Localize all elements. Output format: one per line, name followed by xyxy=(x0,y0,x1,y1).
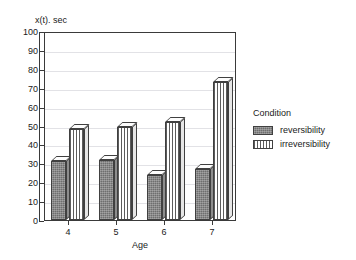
x-tick-label-5: 5 xyxy=(101,227,131,237)
y-tick-label: 20 xyxy=(4,179,38,188)
bar-side xyxy=(84,125,89,220)
bar-face xyxy=(147,175,162,220)
y-tick-label: 10 xyxy=(4,198,38,207)
bar-irreversibility-7 xyxy=(213,82,228,220)
bar-face xyxy=(99,160,114,220)
x-tick-mark xyxy=(164,221,165,225)
legend-entries: reversibilityirreversibility xyxy=(253,125,353,149)
legend-item-irreversibility: irreversibility xyxy=(253,139,353,149)
bar-face xyxy=(165,122,180,220)
chart-figure: x(t). sec 0102030405060708090100 4567 Ag… xyxy=(0,0,356,260)
gridline xyxy=(45,109,235,110)
legend-title: Condition xyxy=(253,108,353,119)
y-tick-mark xyxy=(39,221,44,222)
legend-swatch-reversibility xyxy=(253,126,273,135)
gridline xyxy=(45,90,235,91)
gridline xyxy=(45,52,235,53)
legend: Condition reversibilityirreversibility xyxy=(253,108,353,153)
x-axis-title: Age xyxy=(44,240,236,250)
legend-label-irreversibility: irreversibility xyxy=(280,139,330,149)
y-tick-label: 60 xyxy=(4,104,38,113)
bar-reversibility-4 xyxy=(51,161,66,220)
x-tick-mark xyxy=(68,221,69,225)
y-axis-caption: x(t). sec xyxy=(35,15,67,26)
bar-irreversibility-4 xyxy=(69,129,84,220)
y-tick-label: 100 xyxy=(4,28,38,37)
bar-side xyxy=(228,78,233,220)
bar-face xyxy=(213,82,228,220)
bar-face xyxy=(117,127,132,220)
legend-item-reversibility: reversibility xyxy=(253,125,353,135)
legend-label-reversibility: reversibility xyxy=(280,125,325,135)
bar-reversibility-5 xyxy=(99,160,114,220)
x-tick-label-7: 7 xyxy=(197,227,227,237)
y-tick-label: 50 xyxy=(4,123,38,132)
bar-side xyxy=(180,117,185,220)
y-tick-label: 90 xyxy=(4,47,38,56)
bar-face xyxy=(195,169,210,220)
bar-reversibility-6 xyxy=(147,175,162,220)
cropped-title xyxy=(0,0,356,9)
bar-face xyxy=(51,161,66,220)
x-tick-label-4: 4 xyxy=(53,227,83,237)
y-tick-label: 40 xyxy=(4,141,38,150)
legend-swatch-irreversibility xyxy=(253,140,273,149)
bar-side xyxy=(132,123,137,220)
x-tick-mark xyxy=(116,221,117,225)
bar-irreversibility-5 xyxy=(117,127,132,220)
bar-face xyxy=(69,129,84,220)
bar-irreversibility-6 xyxy=(165,122,180,220)
y-tick-label: 0 xyxy=(4,217,38,226)
gridline xyxy=(45,71,235,72)
y-tick-label: 80 xyxy=(4,66,38,75)
plot-area xyxy=(44,32,236,221)
y-tick-label: 30 xyxy=(4,160,38,169)
x-tick-mark xyxy=(212,221,213,225)
x-tick-label-6: 6 xyxy=(149,227,179,237)
y-tick-label: 70 xyxy=(4,85,38,94)
bar-reversibility-7 xyxy=(195,169,210,220)
